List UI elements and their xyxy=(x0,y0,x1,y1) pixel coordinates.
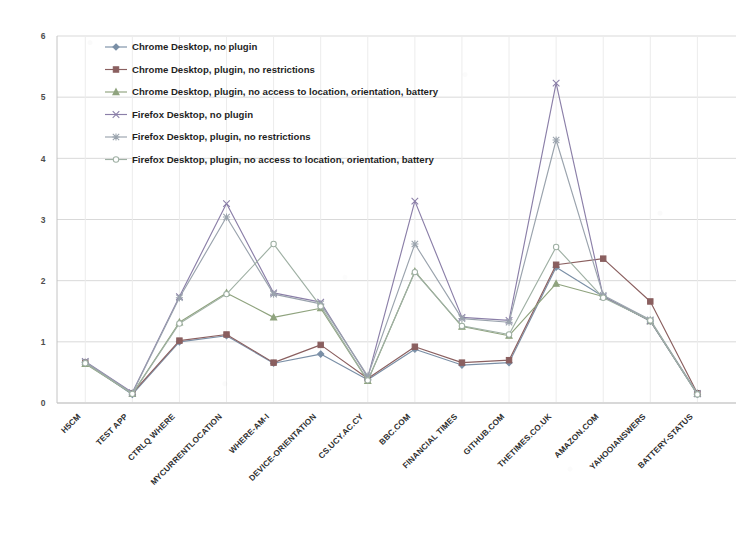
x-axis-tick-label: BBC.COM xyxy=(378,412,413,447)
circle-marker xyxy=(83,361,88,366)
legend-item-label: Firefox Desktop, no plugin xyxy=(132,109,253,120)
y-axis-tick-label: 1 xyxy=(41,337,46,347)
square-marker xyxy=(224,332,229,337)
legend-item-label: Firefox Desktop, plugin, no restrictions xyxy=(132,131,311,142)
series-line xyxy=(85,267,697,394)
diamond-marker xyxy=(113,44,119,50)
x-axis-tick-label: WHERE-AM-I xyxy=(228,412,271,455)
series-layer xyxy=(82,80,701,398)
circle-marker xyxy=(224,291,229,296)
circle-marker xyxy=(365,378,370,383)
legend-item-6: Firefox Desktop, plugin, no access to lo… xyxy=(105,154,434,165)
legend-item-label: Chrome Desktop, plugin, no restrictions xyxy=(132,64,315,75)
legend-item-1: Chrome Desktop, no plugin xyxy=(105,41,257,52)
legend-item-label: Firefox Desktop, plugin, no access to lo… xyxy=(132,154,434,165)
legend-item-5: Firefox Desktop, plugin, no restrictions xyxy=(105,131,311,142)
square-marker xyxy=(412,344,417,349)
series-5 xyxy=(82,136,701,396)
circle-marker xyxy=(271,241,276,246)
circle-marker xyxy=(553,244,558,249)
square-marker xyxy=(553,262,558,267)
circle-marker xyxy=(113,157,118,162)
series-6 xyxy=(83,241,701,397)
asterisk-marker xyxy=(411,240,418,247)
legend-item-label: Chrome Desktop, no plugin xyxy=(132,41,257,52)
y-axis-tick-label: 6 xyxy=(41,31,46,41)
circle-marker xyxy=(412,269,417,274)
x-axis-tick-label: THETIMES.CO.UK xyxy=(496,412,553,469)
x-axis-tick-label: CS.UCY.AC.CY xyxy=(317,412,366,461)
circle-marker xyxy=(648,318,653,323)
square-marker xyxy=(601,256,606,261)
square-marker xyxy=(506,357,511,362)
series-4 xyxy=(82,80,701,397)
asterisk-marker xyxy=(223,213,230,220)
circle-marker xyxy=(459,323,464,328)
square-marker xyxy=(318,342,323,347)
y-axis-tick-label: 4 xyxy=(41,154,46,164)
circle-marker xyxy=(695,392,700,397)
legend-item-4: Firefox Desktop, no plugin xyxy=(105,109,253,120)
square-marker xyxy=(271,360,276,365)
y-axis-tick-label: 0 xyxy=(41,398,46,408)
line-chart: 0123456 H5CMTEST APPCTRLQ WHEREMYCURRENT… xyxy=(0,0,750,533)
circle-marker xyxy=(177,321,182,326)
series-line xyxy=(85,140,697,393)
series-line xyxy=(85,244,697,394)
legend-item-2: Chrome Desktop, plugin, no restrictions xyxy=(105,64,315,75)
asterisk-marker xyxy=(553,136,560,143)
circle-marker xyxy=(130,391,135,396)
x-axis-tick-label: TEST APP xyxy=(94,412,130,448)
diamond-marker xyxy=(318,351,324,357)
x-axis-tick-label: H5CM xyxy=(59,412,82,435)
y-axis-tick-label: 5 xyxy=(41,92,46,102)
legend-item-3: Chrome Desktop, plugin, no access to loc… xyxy=(105,86,439,97)
x-axis-tick-label: GITHUB.COM xyxy=(462,412,507,457)
chart-canvas: 0123456 H5CMTEST APPCTRLQ WHEREMYCURRENT… xyxy=(0,0,750,533)
asterisk-marker xyxy=(270,291,277,298)
square-marker xyxy=(648,299,653,304)
series-line xyxy=(85,83,697,394)
y-axis-tick-label: 2 xyxy=(41,276,46,286)
y-axis-tick-labels: 0123456 xyxy=(41,31,46,408)
circle-marker xyxy=(506,332,511,337)
asterisk-marker xyxy=(458,315,465,322)
circle-marker xyxy=(318,304,323,309)
asterisk-marker xyxy=(176,294,183,301)
asterisk-marker xyxy=(505,319,512,326)
chart-legend: Chrome Desktop, no pluginChrome Desktop,… xyxy=(105,41,439,164)
asterisk-marker xyxy=(112,133,119,140)
triangle-marker xyxy=(553,280,559,286)
x-axis-tick-labels: H5CMTEST APPCTRLQ WHEREMYCURRENTLOCATION… xyxy=(59,412,695,487)
y-axis-tick-label: 3 xyxy=(41,215,46,225)
x-axis-tick-label: CTRLQ WHERE xyxy=(126,412,177,463)
square-marker xyxy=(113,67,118,72)
x-axis-tick-label: AMAZON.COM xyxy=(553,412,601,460)
square-marker xyxy=(177,338,182,343)
square-marker xyxy=(459,360,464,365)
circle-marker xyxy=(601,295,606,300)
legend-item-label: Chrome Desktop, plugin, no access to loc… xyxy=(132,86,439,97)
